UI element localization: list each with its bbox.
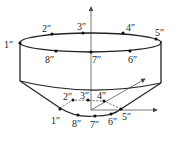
top-rim-ellipse xyxy=(20,33,161,52)
top-label-2: 2″ xyxy=(42,23,51,34)
top-label-1: 1″ xyxy=(4,39,13,50)
bottom-label-6: 6″ xyxy=(108,116,117,127)
bottom-label-3: 3″ xyxy=(80,90,89,101)
bottom-label-2: 2″ xyxy=(63,91,72,102)
top-label-3: 3″ xyxy=(77,21,86,32)
bottom-label-7: 7″ xyxy=(90,119,99,130)
top-label-4: 4″ xyxy=(126,22,135,33)
cylinder-cone-diagram: 1″ 2″ 3″ 4″ 5″ 6″ 7″ 8″ 1″ 2″ 3″ 4″ 5″ 6… xyxy=(0,0,174,142)
top-label-5: 5″ xyxy=(155,27,164,38)
top-label-8: 8″ xyxy=(45,54,54,65)
top-label-7: 7″ xyxy=(92,54,101,65)
bottom-label-1: 1″ xyxy=(51,115,60,126)
bottom-label-8: 8″ xyxy=(72,118,81,129)
bottom-label-5: 5″ xyxy=(122,111,131,122)
bottom-label-4: 4″ xyxy=(97,90,106,101)
top-label-6: 6″ xyxy=(128,54,137,65)
